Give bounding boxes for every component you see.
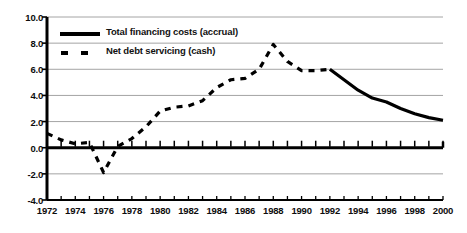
x-tick-label: 1992 [320,205,340,216]
x-tick-label: 1972 [37,205,57,216]
x-tick-label: 1984 [207,205,227,216]
chart-legend: Total financing costs (accrual) Net debt… [60,22,275,60]
legend-item-net-debt-servicing: Net debt servicing (cash) [60,41,275,60]
x-tick-label: 1990 [291,205,311,216]
y-tick-label: 10.0 [3,12,43,23]
y-tick-label: 6.0 [3,64,43,75]
x-tick-label: 2000 [433,205,453,216]
x-axis-tick-labels: 1972197419761978198019821984198619881990… [47,205,443,223]
y-tick-label: -2.0 [3,168,43,179]
y-tick-label: 0.0 [3,142,43,153]
legend-label-net-debt-servicing: Net debt servicing (cash) [106,45,215,56]
x-tick-label: 1982 [178,205,198,216]
legend-item-total-financing-costs: Total financing costs (accrual) [60,22,275,41]
legend-label-total-financing-costs: Total financing costs (accrual) [106,26,238,37]
x-tick-label: 1986 [235,205,255,216]
series-line-2 [47,44,330,172]
y-tick-label: 2.0 [3,116,43,127]
x-tick-label: 1996 [376,205,396,216]
y-tick-label: 8.0 [3,38,43,49]
x-tick-label: 1980 [150,205,170,216]
x-tick-label: 1988 [263,205,283,216]
x-tick-label: 1974 [65,205,85,216]
y-tick-label: -4.0 [3,195,43,206]
x-tick-label: 1998 [405,205,425,216]
x-tick-label: 1976 [93,205,113,216]
y-axis-tick-labels: 10.08.06.04.02.00.0-2.0-4.0 [0,17,43,200]
financing-costs-chart: 10.08.06.04.02.00.0-2.0-4.0 197219741976… [0,0,467,233]
legend-solid-line-icon [60,26,106,38]
x-tick-label: 1994 [348,205,368,216]
legend-dashed-line-icon [60,45,106,57]
y-tick-label: 4.0 [3,90,43,101]
x-tick-label: 1978 [122,205,142,216]
series-line-1 [330,69,443,120]
